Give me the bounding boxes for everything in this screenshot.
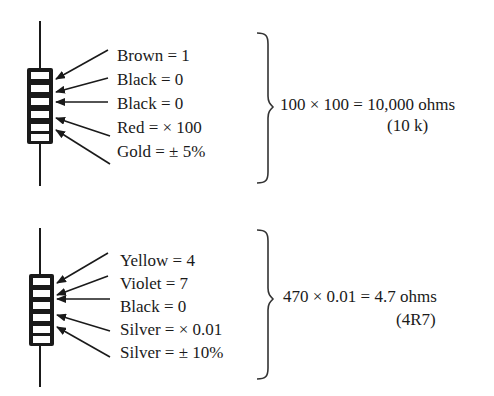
resistor-2-arrows <box>57 253 110 357</box>
resistance-result: 470 × 0.01 = 4.7 ohms <box>283 288 437 305</box>
band-label: Silver = ± 10% <box>120 344 223 361</box>
resistance-code: (4R7) <box>396 311 436 328</box>
band-label: Yellow = 4 <box>120 252 195 269</box>
arrow-icon <box>56 130 110 164</box>
resistance-result: 100 × 100 = 10,000 ohms <box>280 96 455 113</box>
band-label: Black = 0 <box>117 95 183 112</box>
band-label: Violet = 7 <box>120 275 188 292</box>
arrow-icon <box>57 327 110 357</box>
resistor-1 <box>27 21 53 186</box>
arrow-icon <box>57 315 110 331</box>
band-label: Gold = ± 5% <box>117 143 205 160</box>
band-label: Silver = × 0.01 <box>120 321 222 338</box>
resistor-1-body <box>27 68 53 144</box>
arrow-icon <box>56 78 108 92</box>
band-label: Black = 0 <box>120 298 186 315</box>
resistor-2 <box>29 228 54 387</box>
resistor-1-arrows <box>56 50 110 164</box>
resistance-code: (10 k) <box>387 117 428 134</box>
band-label: Brown = 1 <box>117 47 190 64</box>
arrow-icon <box>56 50 108 79</box>
band-label: Red = × 100 <box>117 119 202 136</box>
brace-2 <box>257 230 273 379</box>
band-label: Black = 0 <box>117 71 183 88</box>
brace-1 <box>257 33 273 183</box>
resistor-diagram <box>0 0 494 396</box>
arrow-icon <box>56 118 110 136</box>
